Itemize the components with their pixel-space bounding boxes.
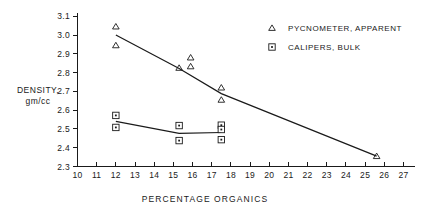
y-tick-label: 2.3 bbox=[57, 162, 70, 172]
square-marker bbox=[176, 122, 182, 128]
x-tick-label: 25 bbox=[360, 170, 370, 180]
y-tick-label: 2.9 bbox=[57, 49, 70, 59]
square-marker bbox=[218, 126, 224, 132]
trend-line-square bbox=[116, 121, 221, 133]
y-tick-label: 2.5 bbox=[57, 124, 70, 134]
y-tick-label: 2.6 bbox=[57, 105, 70, 115]
y-tick-label: 2.8 bbox=[57, 68, 70, 78]
square-marker bbox=[176, 137, 182, 143]
x-tick-label: 23 bbox=[322, 170, 332, 180]
x-tick-label: 19 bbox=[245, 170, 255, 180]
x-tick-label: 21 bbox=[283, 170, 293, 180]
legend-item: PYCNOMETER, APPARENT bbox=[269, 24, 402, 33]
legend-label: CALIPERS, BULK bbox=[288, 43, 361, 52]
triangle-marker bbox=[187, 63, 194, 68]
chart-svg: 2.32.42.52.62.72.82.93.03.1 101112131415… bbox=[0, 0, 423, 213]
square-marker bbox=[218, 136, 224, 142]
x-tick-label: 17 bbox=[207, 170, 217, 180]
square-marker bbox=[269, 44, 275, 50]
x-tick-label: 26 bbox=[379, 170, 389, 180]
density-vs-organics-chart: 2.32.42.52.62.72.82.93.03.1 101112131415… bbox=[0, 0, 423, 213]
x-tick-label: 14 bbox=[149, 170, 159, 180]
x-axis-ticks: 101112131415161718192021222324252627 bbox=[72, 162, 408, 180]
y-tick-label: 3.0 bbox=[57, 30, 70, 40]
x-tick-label: 22 bbox=[303, 170, 313, 180]
y-axis-title: DENSITY, gm/cc bbox=[17, 85, 59, 106]
trend-line-triangle bbox=[116, 35, 377, 156]
triangle-marker bbox=[218, 85, 225, 90]
y-axis-title-line1: DENSITY, bbox=[17, 85, 59, 95]
triangle-marker bbox=[269, 25, 276, 30]
x-tick-label: 12 bbox=[111, 170, 121, 180]
square-marker bbox=[113, 124, 119, 130]
legend-item: CALIPERS, BULK bbox=[269, 43, 361, 52]
y-axis-group: 2.32.42.52.62.72.82.93.03.1 bbox=[57, 11, 77, 171]
x-axis-group: 101112131415161718192021222324252627 bbox=[72, 162, 415, 180]
y-axis-title-line2: gm/cc bbox=[25, 96, 50, 106]
y-axis-ticks: 2.32.42.52.62.72.82.93.03.1 bbox=[57, 11, 77, 171]
x-tick-label: 13 bbox=[130, 170, 140, 180]
x-tick-label: 10 bbox=[72, 170, 82, 180]
legend-label: PYCNOMETER, APPARENT bbox=[288, 24, 402, 33]
x-tick-label: 16 bbox=[188, 170, 198, 180]
triangle-marker bbox=[113, 42, 120, 47]
y-tick-label: 2.7 bbox=[57, 86, 70, 96]
x-tick-label: 18 bbox=[226, 170, 236, 180]
x-tick-label: 24 bbox=[341, 170, 351, 180]
series-trend-lines bbox=[116, 35, 377, 156]
y-tick-label: 2.4 bbox=[57, 143, 70, 153]
triangle-marker bbox=[187, 54, 194, 59]
chart-legend: PYCNOMETER, APPARENTCALIPERS, BULK bbox=[269, 24, 402, 52]
triangle-marker bbox=[113, 24, 120, 29]
x-tick-label: 15 bbox=[168, 170, 178, 180]
x-axis-title: PERCENTAGE ORGANICS bbox=[142, 194, 269, 204]
x-tick-label: 27 bbox=[398, 170, 408, 180]
y-tick-label: 3.1 bbox=[57, 11, 70, 21]
x-tick-label: 20 bbox=[264, 170, 274, 180]
square-marker bbox=[113, 112, 119, 118]
x-tick-label: 11 bbox=[92, 170, 101, 180]
triangle-marker bbox=[218, 97, 225, 102]
